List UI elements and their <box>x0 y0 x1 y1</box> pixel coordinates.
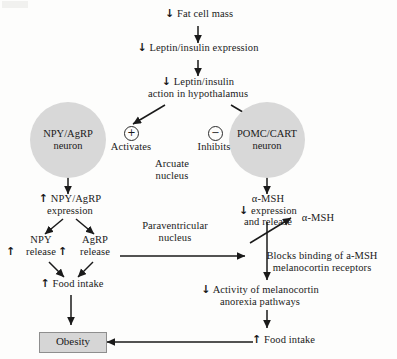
obesity-node: Obesity <box>39 332 107 353</box>
paraventricular-nucleus-line2: nucleus <box>119 232 231 244</box>
up-arrow-icon: ↑ <box>252 333 261 346</box>
up-arrow-icon: ↑ <box>39 192 48 205</box>
paraventricular-nucleus-label: Paraventricular nucleus <box>119 220 231 243</box>
arcuate-nucleus-line1: Arcuate <box>137 158 207 170</box>
node-leptin-insulin-expression: ↓ Leptin/insulin expression <box>80 42 316 54</box>
node-food-intake-right: ↑ Food intake <box>252 334 364 346</box>
up-arrow-icon: ↑ <box>6 245 15 258</box>
melanocortin-activity-line2: anorexia pathways <box>186 296 334 308</box>
node-leptin-insulin-action: ↓ Leptin/insulin action in hypothalamus <box>98 76 298 99</box>
minus-sign-icon: − <box>208 126 223 141</box>
food-intake-left-label: Food intake <box>53 278 104 289</box>
pomc-cart-neuron-line1: POMC/CART <box>217 128 317 140</box>
up-arrow-icon: ↑ <box>40 277 49 290</box>
npy-agrp-expression-line1: NPY/AgRP <box>51 193 101 204</box>
obesity-pathway-diagram: ↓ Fat cell mass ↓ Leptin/insulin express… <box>0 0 397 359</box>
arcuate-nucleus-label: Arcuate nucleus <box>137 158 207 181</box>
food-intake-right-label: Food intake <box>264 334 315 345</box>
activates-label: Activates <box>105 141 157 153</box>
arrow-expression-to-agrprelease <box>76 219 94 234</box>
blocks-binding-line2: melanocortin receptors <box>249 262 395 274</box>
node-amsh-standalone: α-MSH <box>293 212 343 224</box>
blocks-binding-line1: Blocks binding of a-MSH <box>249 250 395 262</box>
paraventricular-nucleus-line1: Paraventricular <box>119 220 231 232</box>
npy-agrp-expression-line2: expression <box>18 205 122 217</box>
up-arrow-icon: ↑ <box>58 245 67 258</box>
node-fat-cell-mass: ↓ Fat cell mass <box>139 8 259 20</box>
agrp-release-line2: release <box>58 246 124 258</box>
down-arrow-icon: ↓ <box>239 204 248 217</box>
arrow-npyrelease-to-foodintake <box>49 262 64 277</box>
npy-agrp-neuron-label: NPY/AgRP neuron <box>18 128 118 152</box>
node-agrp-release: ↑ AgRP release <box>58 234 124 257</box>
plus-sign-icon: + <box>124 126 139 141</box>
fat-cell-mass-label: Fat cell mass <box>177 8 233 19</box>
leptin-insulin-expression-label: Leptin/insulin expression <box>150 42 259 53</box>
leptin-action-line2: action in hypothalamus <box>98 88 298 100</box>
node-npy-agrp-expression: ↑ NPY/AgRP expression <box>18 193 122 216</box>
arrow-expression-to-npyrelease <box>45 219 63 234</box>
inhibits-label: Inhibits <box>188 141 240 153</box>
down-arrow-icon: ↓ <box>165 7 174 20</box>
arrow-agrprelease-to-foodintake <box>78 262 93 277</box>
arrow-leptinaction-to-pomc-neuron <box>231 105 263 124</box>
amsh-expression-line2: expression <box>251 205 297 216</box>
down-arrow-icon: ↓ <box>162 75 171 88</box>
node-food-intake-left: ↑ Food intake <box>16 278 128 290</box>
npy-agrp-neuron-line1: NPY/AgRP <box>18 128 118 140</box>
agrp-release-line1: AgRP <box>58 234 124 246</box>
down-arrow-icon: ↓ <box>201 283 210 296</box>
npy-agrp-neuron-line2: neuron <box>18 140 118 152</box>
down-arrow-icon: ↓ <box>137 41 146 54</box>
node-melanocortin-activity: ↓ Activity of melanocortin anorexia path… <box>186 284 334 307</box>
arcuate-nucleus-line2: nucleus <box>137 170 207 182</box>
node-blocks-binding: Blocks binding of a-MSH melanocortin rec… <box>249 250 395 273</box>
amsh-expression-line1: α-MSH <box>222 193 314 205</box>
melanocortin-activity-line1: Activity of melanocortin <box>213 284 319 295</box>
leptin-action-line1: Leptin/insulin <box>174 76 234 87</box>
obesity-label: Obesity <box>56 335 90 347</box>
arrow-leptinaction-to-npy-neuron <box>133 105 165 124</box>
